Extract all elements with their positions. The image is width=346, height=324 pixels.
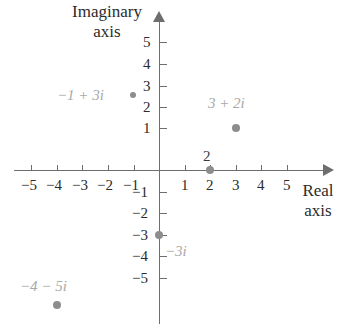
x-tick-mark <box>31 165 32 171</box>
y-tick-label: −3 <box>132 228 148 243</box>
complex-plane-chart: −5 −4 −3 −2 −1 1 2 3 4 5 5 4 3 2 1 −1 −2… <box>0 0 346 324</box>
y-tick-label: 3 <box>143 79 151 94</box>
y-tick-label: 2 <box>143 100 151 115</box>
x-tick-label: −5 <box>21 178 37 193</box>
x-tick-label: −4 <box>46 178 62 193</box>
y-tick-mark <box>160 128 167 129</box>
y-tick-mark <box>160 42 167 43</box>
x-tick-mark <box>287 165 288 171</box>
x-tick-label: −2 <box>97 178 113 193</box>
x-tick-mark <box>236 165 237 171</box>
data-point <box>130 92 136 98</box>
y-tick-mark <box>160 213 167 214</box>
point-label-minus-1-plus-3i: −1 + 3i <box>57 87 104 103</box>
data-point <box>206 166 214 174</box>
y-tick-label: −2 <box>132 206 148 221</box>
x-tick-label: −3 <box>72 178 88 193</box>
y-tick-mark <box>160 192 167 193</box>
x-tick-mark <box>57 165 58 171</box>
y-tick-label: −5 <box>132 271 148 286</box>
y-tick-label: −4 <box>132 249 148 264</box>
real-axis-title-line1: Real <box>290 181 346 200</box>
y-tick-label: −1 <box>132 185 148 200</box>
data-point <box>155 231 163 239</box>
y-tick-label: 4 <box>143 57 151 72</box>
data-point <box>232 124 240 132</box>
x-tick-mark <box>185 165 186 171</box>
x-tick-mark <box>82 165 83 171</box>
y-tick-mark <box>160 278 167 279</box>
x-tick-label: 1 <box>181 178 189 193</box>
x-tick-mark <box>134 165 135 171</box>
point-label-minus-3i: −3i <box>165 243 187 259</box>
y-tick-label: 1 <box>143 121 151 136</box>
point-label-2: 2 <box>203 148 211 164</box>
y-tick-mark <box>160 107 167 108</box>
y-tick-mark <box>160 86 167 87</box>
imaginary-axis-title-line2: axis <box>52 22 162 41</box>
real-axis-arrow-icon <box>323 164 334 176</box>
x-tick-mark <box>261 165 262 171</box>
imaginary-axis-title-line1: Imaginary <box>52 2 162 21</box>
data-point <box>53 301 61 309</box>
y-tick-mark <box>160 64 167 65</box>
x-tick-label: 3 <box>232 178 240 193</box>
point-label-3-plus-2i: 3 + 2i <box>208 95 245 111</box>
x-tick-label: 4 <box>257 178 265 193</box>
x-tick-label: 2 <box>206 178 214 193</box>
x-tick-mark <box>108 165 109 171</box>
point-label-minus-4-minus-5i: −4 − 5i <box>20 278 67 294</box>
real-axis-line <box>14 170 332 171</box>
real-axis-title-line2: axis <box>290 201 346 220</box>
